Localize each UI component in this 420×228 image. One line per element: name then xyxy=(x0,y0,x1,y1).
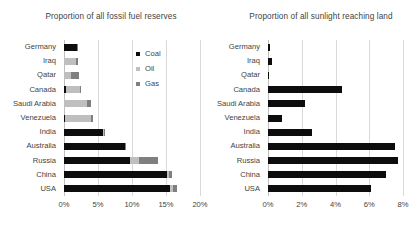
bar-segment-gas xyxy=(91,115,94,122)
bar-segment-sunlight xyxy=(268,58,272,65)
bar-segment-oil xyxy=(65,115,91,122)
bar-row xyxy=(64,185,200,192)
legend-label: Gas xyxy=(145,80,159,88)
legend-label: Oil xyxy=(145,65,154,73)
bar-segment-gas xyxy=(125,143,126,150)
bar-segment-coal xyxy=(64,44,77,51)
bar-row xyxy=(64,86,200,93)
bar-row xyxy=(268,171,403,178)
category-label: India xyxy=(244,128,260,136)
category-label: Australia xyxy=(26,142,56,150)
right-chart-category-labels: GermanyIraqQatarCanadaSaudi ArabiaVenezu… xyxy=(212,40,264,196)
legend-item: Coal xyxy=(136,48,161,60)
bar-segment-coal xyxy=(64,185,170,192)
gridline xyxy=(403,40,404,196)
bar-row xyxy=(64,72,200,79)
category-label: Qatar xyxy=(37,71,56,79)
bar-row xyxy=(268,100,403,107)
legend-swatch-icon xyxy=(136,52,140,56)
bar-row xyxy=(64,129,200,136)
category-label: Germany xyxy=(229,43,260,51)
bar-segment-gas xyxy=(76,58,79,65)
gridline xyxy=(200,40,201,196)
category-label: Saudi Arabia xyxy=(13,100,56,108)
legend-swatch-icon xyxy=(136,82,140,86)
category-label: Australia xyxy=(230,142,260,150)
x-tick-label: 15% xyxy=(158,200,173,209)
bar-segment-gas xyxy=(139,157,158,164)
bar-row xyxy=(64,58,200,65)
right-chart-x-axis: 0%2%4%6%8% xyxy=(268,198,403,212)
bar-row xyxy=(64,143,200,150)
bar-segment-coal xyxy=(64,171,167,178)
right-chart-title: Proportion of all sunlight reaching land xyxy=(222,12,420,21)
bar-segment-sunlight xyxy=(268,171,386,178)
bar-segment-sunlight xyxy=(268,115,282,122)
category-label: USA xyxy=(40,185,56,193)
category-label: Qatar xyxy=(241,71,260,79)
bar-segment-sunlight xyxy=(268,129,312,136)
bar-row xyxy=(64,171,200,178)
bar-row xyxy=(64,44,200,51)
bar-segment-oil xyxy=(130,157,139,164)
bar-segment-sunlight xyxy=(268,157,398,164)
legend-swatch-icon xyxy=(136,67,140,71)
bar-row xyxy=(268,115,403,122)
category-label: Iraq xyxy=(247,57,260,65)
bar-segment-gas xyxy=(80,86,81,93)
right-chart-plot-area xyxy=(268,40,403,196)
bar-row xyxy=(268,129,403,136)
bar-row xyxy=(64,115,200,122)
bar-segment-oil xyxy=(64,100,87,107)
bar-segment-sunlight xyxy=(268,185,371,192)
bar-segment-sunlight xyxy=(268,72,269,79)
x-tick-label: 10% xyxy=(124,200,139,209)
bar-segment-oil xyxy=(66,86,80,93)
bar-row xyxy=(268,72,403,79)
bar-segment-coal xyxy=(64,129,103,136)
left-chart-category-labels: GermanyIraqQatarCanadaSaudi ArabiaVenezu… xyxy=(0,40,60,196)
category-label: Russia xyxy=(33,157,56,165)
category-label: China xyxy=(36,171,56,179)
bar-segment-gas xyxy=(104,129,105,136)
bar-segment-sunlight xyxy=(268,44,270,51)
x-tick-label: 5% xyxy=(93,200,104,209)
x-tick-label: 6% xyxy=(364,200,375,209)
bar-segment-gas xyxy=(77,44,78,51)
bar-row xyxy=(268,44,403,51)
legend-item: Oil xyxy=(136,63,161,75)
x-tick-label: 0% xyxy=(263,200,274,209)
category-label: Russia xyxy=(237,157,260,165)
bar-rows xyxy=(268,40,403,196)
bar-segment-gas xyxy=(173,185,177,192)
bar-row xyxy=(64,157,200,164)
category-label: Saudi Arabia xyxy=(217,100,260,108)
bar-segment-sunlight xyxy=(268,143,395,150)
category-label: Venezuela xyxy=(21,114,56,122)
bar-segment-sunlight xyxy=(268,86,342,93)
bar-segment-oil xyxy=(64,72,71,79)
bar-segment-gas xyxy=(87,100,91,107)
x-tick-label: 8% xyxy=(398,200,409,209)
category-label: China xyxy=(240,171,260,179)
bar-segment-oil xyxy=(64,58,76,65)
category-label: Canada xyxy=(233,86,260,94)
category-label: Iraq xyxy=(43,57,56,65)
legend-label: Coal xyxy=(145,50,161,58)
left-chart-title: Proportion of all fossil fuel reserves xyxy=(0,12,222,21)
category-label: Venezuela xyxy=(225,114,260,122)
x-tick-label: 4% xyxy=(330,200,341,209)
bar-segment-gas xyxy=(169,171,172,178)
bar-row xyxy=(268,157,403,164)
x-tick-label: 20% xyxy=(192,200,207,209)
bar-segment-coal xyxy=(64,143,125,150)
bar-row xyxy=(268,58,403,65)
bar-segment-coal xyxy=(64,157,130,164)
bar-segment-sunlight xyxy=(268,100,305,107)
chart-figure: Proportion of all fossil fuel reserves G… xyxy=(0,0,420,228)
bar-row xyxy=(268,185,403,192)
x-tick-label: 0% xyxy=(59,200,70,209)
bar-rows xyxy=(64,40,200,196)
category-label: Canada xyxy=(29,86,56,94)
x-tick-label: 2% xyxy=(296,200,307,209)
